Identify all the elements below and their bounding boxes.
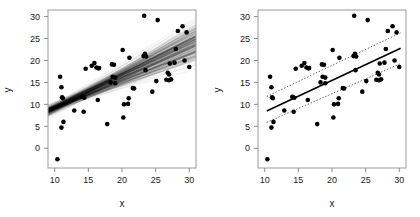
data-point xyxy=(142,13,147,18)
x-tick-label: 20 xyxy=(117,175,127,185)
data-point xyxy=(293,67,298,72)
x-tick-label: 20 xyxy=(327,175,337,185)
data-point xyxy=(282,108,287,113)
data-point xyxy=(336,96,341,101)
data-point xyxy=(187,65,192,70)
data-point xyxy=(291,110,296,115)
data-point xyxy=(113,81,118,86)
data-point xyxy=(122,102,127,107)
data-point xyxy=(155,18,160,23)
data-point xyxy=(322,63,327,68)
y-tick-label: 15 xyxy=(240,78,250,88)
x-tick-label: 25 xyxy=(151,175,161,185)
data-point xyxy=(81,110,86,115)
x-axis-title: x xyxy=(120,198,125,209)
data-point xyxy=(150,89,155,94)
data-point xyxy=(59,125,64,130)
data-point xyxy=(82,95,87,100)
data-point xyxy=(172,60,177,65)
x-tick-label: 15 xyxy=(83,175,93,185)
data-point xyxy=(271,96,276,101)
figure-container: 1015202530051015202530 x y 1015202530051… xyxy=(0,0,420,217)
data-point xyxy=(360,89,365,94)
data-point xyxy=(377,61,382,66)
data-point xyxy=(342,86,347,91)
data-point xyxy=(323,75,328,80)
data-point xyxy=(269,85,274,90)
x-tick-label: 30 xyxy=(394,175,404,185)
y-tick-label: 30 xyxy=(240,12,250,22)
data-point xyxy=(112,63,117,68)
y-tick-label: 20 xyxy=(240,56,250,66)
data-point xyxy=(176,29,181,34)
y-tick-label: 5 xyxy=(35,122,40,132)
data-point xyxy=(59,85,64,90)
data-point xyxy=(268,74,273,79)
posterior-density-band-panel: 1015202530051015202530 x y xyxy=(0,0,210,217)
data-point xyxy=(174,47,179,52)
y-axis-title: y xyxy=(2,88,13,93)
data-point xyxy=(292,95,297,100)
data-point xyxy=(58,74,63,79)
posterior-line xyxy=(48,45,196,111)
data-point xyxy=(384,47,389,52)
data-point xyxy=(332,102,337,107)
data-point xyxy=(394,30,399,35)
posterior-line xyxy=(48,44,196,108)
data-point xyxy=(397,65,402,70)
data-point xyxy=(144,54,149,59)
right-points-layer xyxy=(265,13,401,161)
data-point xyxy=(365,18,370,23)
data-point xyxy=(377,72,382,77)
data-point xyxy=(302,61,307,66)
y-tick-label: 5 xyxy=(245,122,250,132)
y-tick-label: 30 xyxy=(30,12,40,22)
data-point xyxy=(126,96,131,101)
data-point xyxy=(315,122,320,127)
data-point xyxy=(382,60,387,65)
data-point xyxy=(271,120,276,125)
data-point xyxy=(121,115,126,120)
data-point xyxy=(61,120,66,125)
data-point xyxy=(331,115,336,120)
data-point xyxy=(336,102,341,107)
data-point xyxy=(105,122,110,127)
data-point xyxy=(364,79,369,84)
data-point xyxy=(305,98,310,103)
data-point xyxy=(323,81,328,86)
data-point xyxy=(184,30,189,35)
data-point xyxy=(61,96,66,101)
y-tick-label: 20 xyxy=(30,56,40,66)
data-point xyxy=(55,157,60,162)
y-tick-label: 10 xyxy=(30,100,40,110)
data-point xyxy=(154,79,159,84)
y-tick-label: 25 xyxy=(30,34,40,44)
data-point xyxy=(182,58,187,63)
data-point xyxy=(108,80,113,85)
data-point xyxy=(169,77,174,82)
data-point xyxy=(392,58,397,63)
left-plot-svg: 1015202530051015202530 x y xyxy=(0,0,210,217)
x-tick-label: 10 xyxy=(50,175,60,185)
data-point xyxy=(72,108,77,113)
data-point xyxy=(265,157,270,162)
data-point xyxy=(307,66,312,71)
x-tick-label: 30 xyxy=(184,175,194,185)
data-point xyxy=(97,66,102,71)
data-point xyxy=(390,24,395,29)
data-point xyxy=(120,48,125,53)
data-point xyxy=(352,13,357,18)
y-tick-label: 15 xyxy=(30,78,40,88)
right-plot-svg: 1015202530051015202530 x y xyxy=(210,0,420,217)
x-tick-label: 15 xyxy=(293,175,303,185)
x-tick-label: 10 xyxy=(260,175,270,185)
data-point xyxy=(92,61,97,66)
data-point xyxy=(126,102,131,107)
data-point xyxy=(354,54,359,59)
data-point xyxy=(269,125,274,130)
data-point xyxy=(95,98,100,103)
data-point xyxy=(353,68,358,73)
data-point xyxy=(83,67,88,72)
data-point xyxy=(379,77,384,82)
data-point xyxy=(330,48,335,53)
